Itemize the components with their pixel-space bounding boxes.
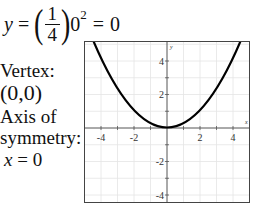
x-tick-label: 4 bbox=[231, 132, 236, 143]
x-tick-label: -4 bbox=[97, 132, 105, 143]
y-tick-label: 4 bbox=[159, 56, 164, 67]
equals-sign: = bbox=[18, 13, 29, 36]
vertex-value: (0,0) bbox=[0, 82, 42, 104]
axis-of-symmetry-equation: x = 0 bbox=[4, 149, 42, 171]
axis-equation-value: = 0 bbox=[12, 149, 42, 170]
axis-of-symmetry-label-line2: symmetry: bbox=[0, 127, 81, 149]
equation-exponent: 2 bbox=[80, 7, 87, 23]
equation-result: 0 bbox=[110, 13, 120, 36]
equation: y = ( 1 4 ) 0 2 = 0 bbox=[4, 2, 120, 46]
fraction-denominator: 4 bbox=[45, 25, 61, 45]
equation-y-variable: y bbox=[4, 13, 13, 36]
x-tick-label: 2 bbox=[198, 132, 203, 143]
axes bbox=[84, 41, 250, 203]
x-tick-label: -2 bbox=[130, 132, 138, 143]
x-axis-label: x bbox=[244, 119, 248, 125]
tick-labels: -4 -2 2 4 4 2 -2 -4 y x bbox=[97, 44, 248, 201]
fraction: 1 4 bbox=[45, 4, 61, 45]
equals-sign-2: = bbox=[93, 13, 104, 36]
left-parenthesis: ( bbox=[34, 4, 43, 44]
equation-base: 0 bbox=[70, 13, 80, 36]
y-tick-label: -4 bbox=[156, 190, 164, 201]
fraction-numerator: 1 bbox=[45, 4, 61, 25]
y-tick-label: 2 bbox=[159, 89, 164, 100]
parabola-graph: -4 -2 2 4 4 2 -2 -4 y x bbox=[84, 41, 250, 203]
axis-of-symmetry-label-line1: Axis of bbox=[0, 106, 56, 128]
vertex-label: Vertex: bbox=[0, 60, 55, 82]
y-tick-label: -2 bbox=[156, 156, 164, 167]
right-parenthesis: ) bbox=[61, 4, 70, 44]
y-axis-label: y bbox=[169, 44, 173, 50]
